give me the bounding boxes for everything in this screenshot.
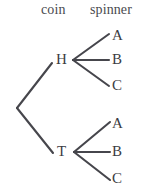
- node-label-spinner-h-a: A: [112, 28, 123, 43]
- node-label-coin-h: H: [56, 52, 67, 67]
- tree-edge-T-C: [74, 152, 110, 180]
- tree-edge-root-H: [17, 63, 52, 108]
- tree-edge-T-A: [74, 122, 110, 152]
- node-label-spinner-h-b: B: [112, 52, 122, 67]
- tree-edge-H-A: [73, 34, 109, 60]
- node-label-spinner-t-a: A: [112, 116, 123, 131]
- tree-edge-root-T: [17, 108, 53, 153]
- node-label-spinner-t-b: B: [112, 144, 122, 159]
- tree-edge-H-C: [73, 60, 109, 86]
- node-label-spinner-t-c: C: [112, 171, 122, 185]
- tree-diagram: coin spinner H T A B C A B C: [0, 0, 153, 185]
- node-label-spinner-h-c: C: [112, 78, 122, 93]
- tree-edges: [0, 0, 153, 185]
- node-label-coin-t: T: [57, 144, 66, 159]
